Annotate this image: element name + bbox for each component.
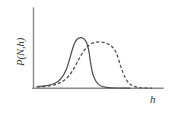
solid-distribution-curve — [37, 38, 130, 89]
y-axis-label: P(N,h) — [15, 37, 27, 67]
x-axis-label: h — [150, 93, 156, 105]
plot-canvas: P(N,h) h — [0, 0, 177, 117]
dashed-distribution-curve — [37, 42, 152, 88]
distribution-figure: P(N,h) h — [0, 0, 177, 117]
